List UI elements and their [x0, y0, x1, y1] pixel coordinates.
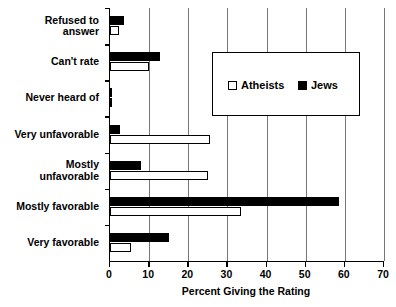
bar-atheists	[110, 243, 131, 252]
x-axis-title: Percent Giving the Rating	[109, 285, 383, 297]
bar-atheists	[110, 171, 208, 180]
x-tick-label: 40	[260, 268, 272, 280]
category-label: Refused to answer	[0, 15, 99, 38]
y-tick	[105, 153, 110, 154]
y-tick	[105, 8, 110, 9]
legend-label-atheists: Atheists	[241, 79, 284, 91]
bar-chart: Refused to answerCan't rateNever heard o…	[0, 0, 396, 307]
legend-item-atheists: Atheists	[228, 79, 284, 91]
x-tick-label: 70	[377, 268, 389, 280]
category-label: Very unfavorable	[0, 129, 99, 141]
bar-jews	[110, 16, 124, 25]
y-tick	[105, 116, 110, 117]
category-label: Can't rate	[0, 56, 99, 68]
bar-atheists	[110, 62, 149, 71]
bar-jews	[110, 197, 339, 206]
category-axis: Refused to answerCan't rateNever heard o…	[0, 8, 103, 261]
category-label: Never heard of	[0, 92, 99, 104]
x-tick	[344, 261, 345, 267]
x-tick-label: 60	[338, 268, 350, 280]
chart-legend: Atheists Jews	[212, 52, 360, 116]
x-tick	[226, 261, 227, 267]
x-tick	[305, 261, 306, 267]
legend-swatch-atheists-icon	[228, 81, 237, 90]
gridline	[267, 8, 268, 261]
gridline	[306, 8, 307, 261]
x-tick-label: 50	[299, 268, 311, 280]
category-label: Mostly favorable	[0, 201, 99, 213]
x-tick-label: 10	[142, 268, 154, 280]
x-tick	[383, 261, 384, 267]
bar-atheists	[110, 98, 112, 107]
gridline	[345, 8, 346, 261]
bar-jews	[110, 52, 160, 61]
x-tick	[266, 261, 267, 267]
legend-label-jews: Jews	[311, 79, 338, 91]
bar-atheists	[110, 135, 210, 144]
x-axis-ticks	[109, 261, 383, 268]
y-tick	[105, 80, 110, 81]
x-tick-label: 20	[181, 268, 193, 280]
y-tick	[105, 189, 110, 190]
x-tick-label: 30	[221, 268, 233, 280]
y-tick	[105, 44, 110, 45]
gridline	[384, 8, 385, 261]
plot-area	[109, 8, 384, 262]
legend-swatch-jews-icon	[298, 81, 307, 90]
category-label: Very favorable	[0, 237, 99, 249]
x-tick	[109, 261, 110, 267]
bar-jews	[110, 125, 120, 134]
x-tick	[187, 261, 188, 267]
bar-jews	[110, 88, 112, 97]
bar-jews	[110, 161, 141, 170]
y-tick	[105, 225, 110, 226]
gridline	[227, 8, 228, 261]
legend-item-jews: Jews	[298, 79, 338, 91]
x-tick	[148, 261, 149, 267]
bar-jews	[110, 233, 169, 242]
x-tick-label: 0	[106, 268, 112, 280]
category-label: Mostly unfavorable	[0, 159, 99, 182]
bar-atheists	[110, 26, 119, 35]
x-axis-tick-labels: 010203040506070	[0, 268, 396, 282]
bar-atheists	[110, 207, 241, 216]
